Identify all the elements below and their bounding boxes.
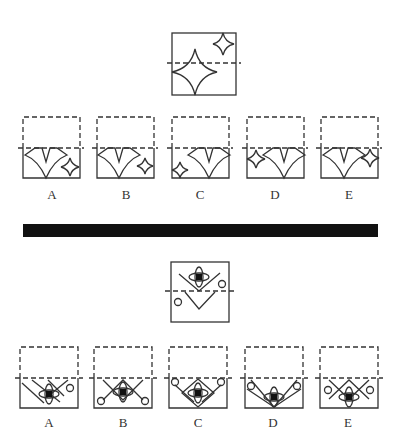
dashed-upper-frame: [321, 117, 378, 148]
folded-star-v-shape: [323, 148, 365, 178]
small-circle: [294, 383, 301, 390]
option-label[interactable]: A: [44, 415, 54, 430]
question-figure-1: [167, 33, 241, 95]
option-figure-a[interactable]: [15, 347, 83, 408]
small-circle: [175, 299, 182, 306]
dashed-upper-frame: [20, 347, 78, 378]
folded-star-v-shape: [188, 148, 230, 178]
small-star-shape: [361, 149, 379, 167]
option-label[interactable]: E: [344, 415, 352, 430]
black-square: [46, 391, 52, 397]
option-figure-b[interactable]: [92, 117, 158, 178]
small-circle: [218, 379, 225, 386]
question-box: [172, 33, 236, 95]
small-star-shape: [213, 33, 234, 55]
option-figure-d[interactable]: [240, 347, 308, 408]
folded-star-v-shape: [263, 148, 305, 178]
small-circle: [67, 385, 74, 392]
black-square: [195, 390, 201, 396]
dashed-upper-frame: [94, 347, 152, 378]
dashed-upper-frame: [169, 347, 227, 378]
small-star-shape: [61, 158, 79, 176]
dashed-upper-frame: [172, 117, 229, 148]
black-square: [346, 394, 352, 400]
small-star-shape: [137, 158, 153, 174]
black-square: [196, 274, 202, 280]
small-circle: [142, 398, 149, 405]
small-circle: [248, 383, 255, 390]
option-figure-c[interactable]: [164, 347, 232, 408]
folded-star-v-shape: [98, 148, 140, 178]
option-figure-d[interactable]: [242, 117, 308, 178]
option-label[interactable]: D: [270, 187, 279, 202]
option-label[interactable]: C: [194, 415, 203, 430]
black-square: [271, 394, 277, 400]
small-circle: [172, 379, 179, 386]
option-figure-a[interactable]: [18, 117, 84, 178]
option-label[interactable]: B: [122, 187, 131, 202]
black-square: [120, 389, 126, 395]
option-label[interactable]: A: [47, 187, 57, 202]
small-circle: [98, 398, 105, 405]
solid-lower-frame: [321, 148, 378, 178]
option-label[interactable]: C: [196, 187, 205, 202]
small-circle: [367, 387, 374, 394]
folded-star-v-shape: [25, 148, 67, 178]
option-label[interactable]: D: [268, 415, 277, 430]
diagonal-line: [175, 385, 194, 402]
diagonal-line: [202, 385, 221, 402]
small-star-shape: [172, 162, 188, 178]
option-label[interactable]: E: [345, 187, 353, 202]
large-star-shape: [172, 49, 217, 95]
small-circle: [219, 281, 226, 288]
dashed-upper-frame: [245, 347, 303, 378]
dashed-upper-frame: [320, 347, 378, 378]
small-star-shape: [247, 150, 265, 168]
lower-v-line: [185, 292, 215, 309]
option-figure-b[interactable]: [89, 347, 157, 408]
option-figure-e[interactable]: [316, 117, 382, 178]
option-figure-c[interactable]: [167, 117, 233, 178]
small-circle: [325, 387, 332, 394]
dashed-upper-frame: [97, 117, 154, 148]
option-label[interactable]: B: [119, 415, 128, 430]
question-box: [171, 262, 229, 322]
dashed-upper-frame: [247, 117, 304, 148]
dashed-upper-frame: [23, 117, 80, 148]
question-figure-2: [165, 262, 235, 322]
diagonal-line: [22, 383, 44, 403]
option-figure-e[interactable]: [315, 347, 383, 408]
puzzle-canvas: .s { fill: none; stroke: #333; stroke-wi…: [0, 0, 401, 446]
section-divider: [23, 224, 378, 237]
